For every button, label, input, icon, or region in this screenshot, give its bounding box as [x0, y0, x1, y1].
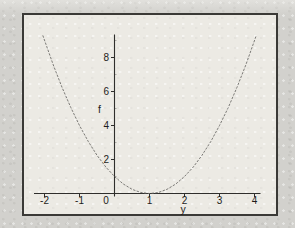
plot-frame: [22, 13, 278, 216]
scanned-page: -2-1012342468fy: [0, 0, 295, 228]
